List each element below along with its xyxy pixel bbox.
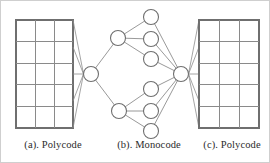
node-leaf-2	[144, 32, 159, 47]
left-fan-line	[73, 20, 84, 74]
node-leaf-5	[144, 104, 159, 119]
monocode-edges	[91, 17, 181, 131]
right-polycode-grid	[199, 20, 259, 128]
node-leaf-4	[144, 82, 159, 97]
caption-monocode-b: (b). Monocode	[105, 138, 193, 152]
right-fan-line	[189, 74, 200, 128]
left-fan-line	[73, 74, 84, 128]
left-fan-connectors	[73, 20, 84, 128]
caption-polycode-c: (c). Polycode	[193, 138, 270, 152]
left-polycode-grid	[16, 20, 73, 128]
right-fan-line	[189, 20, 200, 74]
node-branch-bottom	[112, 104, 127, 119]
caption-polycode-a: (a). Polycode	[1, 138, 105, 152]
node-branch-top	[111, 31, 126, 46]
left-fan-line	[73, 47, 84, 74]
caption-row: (a). Polycode (b). Monocode (c). Polycod…	[1, 138, 270, 160]
left-grid-frame	[16, 20, 73, 128]
node-leaf-3	[144, 52, 159, 67]
figure-root: (a). Polycode (b). Monocode (c). Polycod…	[0, 0, 270, 163]
right-fan-line	[189, 74, 200, 101]
right-fan-connectors	[189, 20, 200, 128]
node-right-hub	[174, 67, 189, 82]
right-grid-frame	[199, 20, 259, 128]
node-leaf-6	[144, 124, 159, 139]
right-fan-line	[189, 47, 200, 74]
node-left-hub	[84, 67, 99, 82]
node-leaf-1	[144, 10, 159, 25]
left-fan-line	[73, 74, 84, 101]
monocode-nodes	[84, 10, 189, 139]
